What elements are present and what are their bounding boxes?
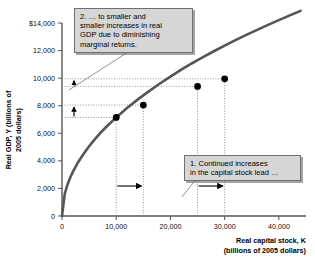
- y-tick-label: 2,000: [37, 184, 55, 193]
- figure-root: 02,0004,0006,0008,00010,00012,000$14,000…: [0, 0, 315, 261]
- y-tick-label: 8,000: [37, 101, 55, 110]
- callout-diminishing-returns: 2. … to smaller and smaller increases in…: [74, 8, 193, 53]
- data-point-marker: [140, 102, 147, 109]
- y-axis-title-line2: 2005 dollars): [14, 107, 23, 152]
- y-tick-label: $14,000: [29, 19, 55, 28]
- x-tick-label: 30,000: [214, 222, 236, 231]
- x-axis-title-line2: (billions of 2005 dollars): [224, 246, 307, 255]
- callout-2-line-1: 2. … to smaller and: [80, 12, 188, 21]
- x-axis-ticks: 010,00020,00030,00040,000: [60, 216, 290, 231]
- data-point-marker: [221, 75, 228, 82]
- y-axis-ticks: 02,0004,0006,0008,00010,00012,000$14,000: [29, 19, 62, 221]
- x-tick-label: 0: [60, 222, 64, 231]
- x-tick-label: 40,000: [268, 222, 290, 231]
- y-tick-label: 4,000: [37, 156, 55, 165]
- x-axis-title-line1: Real capital stock, K: [236, 236, 307, 245]
- y-axis-title-line1: Real GDP, Y (billions of: [4, 90, 13, 169]
- y-tick-label: 6,000: [37, 129, 55, 138]
- callout-2-line-3: GDP due to diminishing: [80, 30, 188, 39]
- callout-2-line-4: marginal returns.: [80, 40, 188, 49]
- y-tick-label: 10,000: [33, 74, 55, 83]
- y-tick-label: 0: [51, 212, 55, 221]
- leader-line-callout-2: [69, 52, 128, 90]
- callout-1-line-1: 1. Continued increases: [190, 159, 296, 168]
- callout-capital-stock-increase: 1. Continued increases in the capital st…: [184, 155, 301, 181]
- y-axis-title: Real GDP, Y (billions of 2005 dollars): [4, 90, 23, 169]
- x-tick-label: 10,000: [105, 222, 127, 231]
- callout-leader-lines: [69, 52, 197, 197]
- x-tick-label: 20,000: [159, 222, 181, 231]
- x-axis-title: Real capital stock, K (billions of 2005 …: [224, 236, 307, 255]
- guide-lines: [62, 79, 225, 216]
- data-point-marker: [113, 114, 120, 121]
- data-point-marker: [194, 83, 201, 90]
- callout-2-line-2: smaller increases in real: [80, 21, 188, 30]
- data-points: [113, 75, 228, 120]
- callout-1-line-2: in the capital stock lead …: [190, 168, 296, 177]
- y-tick-label: 12,000: [33, 46, 55, 55]
